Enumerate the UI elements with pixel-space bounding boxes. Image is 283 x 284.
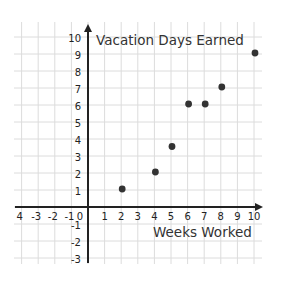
x-tick-labels: 4-3-2-112345678910 — [16, 211, 260, 222]
x-tick-label: 1 — [101, 211, 107, 222]
x-tick-label: -3 — [31, 211, 41, 222]
y-tick-label: 1 — [75, 186, 81, 197]
x-tick-label: 5 — [168, 211, 174, 222]
x-axis-title: Weeks Worked — [153, 224, 252, 240]
data-point — [152, 169, 159, 176]
data-point — [252, 50, 259, 57]
y-axis-arrow-icon — [84, 24, 92, 32]
data-point — [218, 84, 225, 91]
y-axis-title: Vacation Days Earned — [96, 32, 244, 48]
x-tick-label: 4 — [151, 211, 157, 222]
x-tick-label: 10 — [248, 211, 261, 222]
x-tick-label: 4 — [16, 211, 22, 222]
x-tick-label: 7 — [201, 211, 207, 222]
y-tick-label: 6 — [75, 101, 81, 112]
y-tick-label: 7 — [75, 84, 81, 95]
y-tick-label: -2 — [71, 237, 81, 248]
y-tick-label: 5 — [75, 118, 81, 129]
x-tick-label: 9 — [234, 211, 240, 222]
x-tick-label: 8 — [218, 211, 224, 222]
x-tick-label: 3 — [135, 211, 141, 222]
y-tick-labels: 10987654321-1-2-3 — [68, 33, 81, 265]
y-tick-label: 9 — [75, 50, 81, 61]
x-tick-label: 2 — [118, 211, 124, 222]
data-point — [202, 101, 209, 108]
x-axis-arrow-icon — [255, 203, 263, 211]
x-tick-label: 6 — [184, 211, 190, 222]
y-tick-label: 4 — [75, 135, 81, 146]
data-point — [119, 186, 126, 193]
y-tick-label: -3 — [71, 254, 81, 265]
scatter-chart: 4-3-2-112345678910 10987654321-1-2-3 0 V… — [0, 0, 283, 284]
data-point — [185, 101, 192, 108]
y-tick-label: 3 — [75, 152, 81, 163]
y-tick-label: 8 — [75, 67, 81, 78]
y-tick-label: 10 — [68, 33, 81, 44]
y-tick-label: 2 — [75, 169, 81, 180]
origin-label: 0 — [77, 211, 83, 222]
x-tick-label: -2 — [48, 211, 58, 222]
data-point — [169, 143, 176, 150]
